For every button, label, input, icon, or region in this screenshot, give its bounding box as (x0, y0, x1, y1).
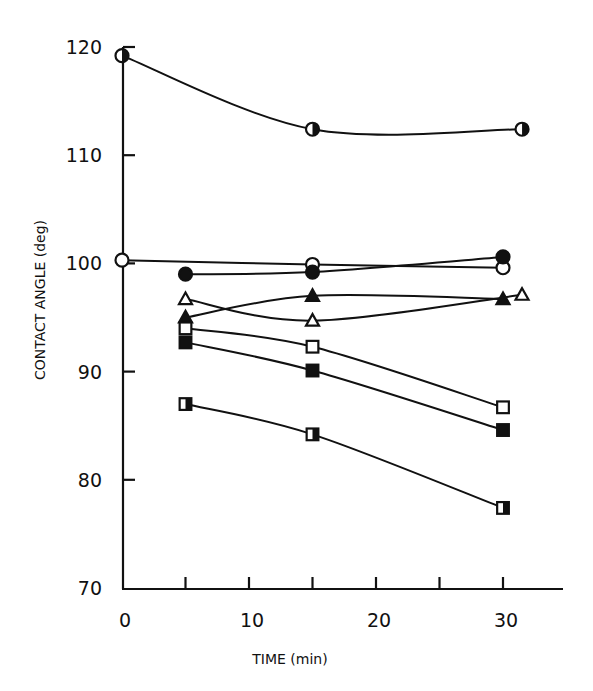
series-line-half-filled-square (186, 404, 504, 508)
open-triangle-marker (179, 292, 192, 304)
filled-circle-marker (179, 268, 192, 281)
filled-square-marker (180, 337, 192, 349)
y-tick-label: 90 (78, 361, 102, 383)
y-axis-title: CONTACT ANGLE (deg) (32, 220, 48, 380)
x-tick-label: 30 (494, 609, 518, 631)
filled-circle-marker (306, 266, 319, 279)
y-tick-label: 100 (66, 252, 102, 274)
open-square-marker (180, 322, 192, 334)
series-markers (116, 49, 529, 514)
series-line-open-square (186, 328, 504, 407)
y-tick-label: 120 (66, 36, 102, 58)
filled-square-marker (307, 365, 319, 377)
series-lines (122, 56, 522, 508)
half-filled-circle-marker (116, 49, 129, 62)
x-tick-label: 10 (240, 609, 264, 631)
filled-square-marker (497, 424, 509, 436)
half-filled-square-marker (180, 398, 192, 410)
contact-angle-chart: 708090100110120 0102030 TIME (min) CONTA… (0, 0, 593, 691)
y-tick-label: 70 (78, 577, 102, 599)
y-tick-label: 80 (78, 469, 102, 491)
x-tick-label: 20 (367, 609, 391, 631)
x-tick-label: 0 (119, 609, 131, 631)
y-tick-label: 110 (66, 144, 102, 166)
half-filled-square-marker (497, 502, 509, 514)
half-filled-square-marker (307, 429, 319, 441)
half-filled-circle-marker (516, 123, 529, 136)
open-triangle-marker (516, 288, 529, 300)
open-square-marker (307, 341, 319, 353)
filled-circle-marker (497, 250, 510, 263)
y-ticks: 708090100110120 (66, 36, 135, 599)
series-line-filled-triangle (186, 295, 504, 318)
x-axis-title: TIME (min) (251, 651, 327, 667)
x-ticks: 0102030 (119, 577, 518, 631)
series-line-half-filled-circle (122, 56, 522, 135)
half-filled-circle-marker (306, 123, 319, 136)
open-square-marker (497, 401, 509, 413)
open-circle-marker (116, 254, 129, 267)
